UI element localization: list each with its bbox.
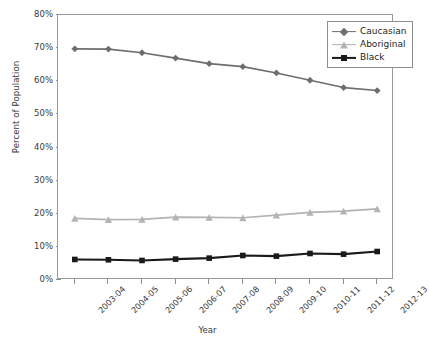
data-point-marker bbox=[274, 253, 280, 259]
data-point-marker bbox=[341, 251, 347, 257]
x-tick-label: 2004-05 bbox=[129, 284, 160, 315]
data-point-marker bbox=[72, 257, 78, 263]
data-point-marker bbox=[71, 45, 78, 52]
series-black bbox=[72, 249, 380, 264]
legend-label: Black bbox=[360, 51, 384, 64]
legend-marker bbox=[341, 55, 347, 61]
x-tick-label: 2005-06 bbox=[163, 284, 194, 315]
data-point-marker bbox=[307, 77, 314, 84]
x-tick-label: 2008-09 bbox=[264, 284, 295, 315]
chart-legend: CaucasianAboriginalBlack bbox=[327, 21, 413, 68]
data-point-marker bbox=[139, 258, 145, 264]
data-point-marker bbox=[340, 84, 347, 91]
legend-marker bbox=[340, 41, 348, 48]
data-point-marker bbox=[374, 249, 380, 255]
data-point-marker bbox=[239, 63, 246, 70]
data-point-marker bbox=[206, 60, 213, 67]
legend-label: Aboriginal bbox=[360, 38, 406, 51]
x-tick-label: 2006-07 bbox=[197, 284, 228, 315]
x-tick-label: 2011-12 bbox=[365, 284, 396, 315]
x-tick-label: 2010-11 bbox=[331, 284, 362, 315]
data-point-marker bbox=[206, 255, 212, 261]
legend-swatch bbox=[332, 52, 356, 64]
data-point-marker bbox=[139, 49, 146, 56]
legend-item-caucasian: Caucasian bbox=[332, 25, 406, 38]
data-point-marker bbox=[105, 46, 112, 53]
data-point-marker bbox=[374, 87, 381, 94]
data-point-marker bbox=[240, 253, 246, 259]
x-tick-label: 2003-04 bbox=[96, 284, 127, 315]
legend-marker bbox=[340, 27, 348, 35]
x-tick-label: 2007-08 bbox=[230, 284, 261, 315]
data-point-marker bbox=[172, 55, 179, 62]
series-aboriginal bbox=[71, 205, 381, 223]
data-point-marker bbox=[106, 257, 112, 263]
data-point-marker bbox=[173, 256, 179, 262]
series-line bbox=[75, 209, 377, 220]
legend-item-aboriginal: Aboriginal bbox=[332, 38, 406, 51]
legend-item-black: Black bbox=[332, 51, 406, 64]
x-tick-label: 2009-10 bbox=[297, 284, 328, 315]
data-point-marker bbox=[273, 70, 280, 77]
data-point-marker bbox=[307, 251, 313, 257]
legend-swatch bbox=[332, 39, 356, 51]
legend-swatch bbox=[332, 26, 356, 38]
x-tick-label: 2012-13 bbox=[398, 284, 429, 315]
series-line bbox=[75, 252, 377, 261]
x-axis-title: Year bbox=[0, 325, 415, 335]
legend-label: Caucasian bbox=[360, 25, 406, 38]
